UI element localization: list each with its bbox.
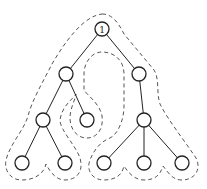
tree-node bbox=[137, 113, 151, 127]
tree-node bbox=[58, 156, 72, 170]
root-label: 1 bbox=[99, 25, 105, 35]
tree-node bbox=[132, 67, 146, 81]
tree-diagram: 1 bbox=[0, 0, 207, 189]
tree-node bbox=[59, 67, 73, 81]
traversal-contour bbox=[6, 14, 198, 180]
tree-node bbox=[175, 156, 189, 170]
tree-node bbox=[15, 156, 29, 170]
nodes bbox=[15, 22, 189, 170]
edges bbox=[22, 29, 182, 163]
tree-node bbox=[97, 156, 111, 170]
tree-node bbox=[137, 156, 151, 170]
tree-node bbox=[80, 113, 94, 127]
tree-node bbox=[36, 113, 50, 127]
